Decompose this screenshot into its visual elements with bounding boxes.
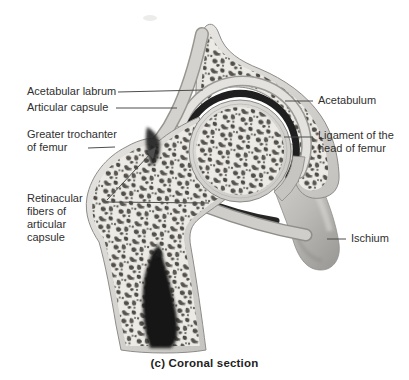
label-line: capsule [27,231,83,244]
label-line: head of femur [318,142,394,155]
label-acetabular-labrum: Acetabular labrum [27,85,116,98]
femoral-head [189,100,291,202]
label-retinacular-fibers: Retinacular fibers of articular capsule [27,192,83,244]
print-smudge [143,15,157,21]
hip-joint-illustration [0,0,409,380]
label-line: Retinacular [27,192,83,205]
label-line: Ischium [351,232,389,245]
label-line: Greater trochanter [27,128,117,141]
label-line: Articular capsule [27,101,108,114]
figure-caption: (c) Coronal section [0,357,409,369]
label-line: Ligament of the [318,129,394,142]
label-ligament-of-head: Ligament of the head of femur [318,129,394,155]
label-ischium: Ischium [351,232,389,245]
hip-coronal-figure: Acetabular labrum Articular capsule Grea… [0,0,409,380]
label-line: of femur [27,141,117,154]
label-line: Acetabular labrum [27,85,116,98]
label-greater-trochanter: Greater trochanter of femur [27,128,117,154]
label-line: fibers of [27,205,83,218]
label-line: Acetabulum [318,94,376,107]
label-line: articular [27,218,83,231]
label-acetabulum: Acetabulum [318,94,376,107]
label-articular-capsule: Articular capsule [27,101,108,114]
